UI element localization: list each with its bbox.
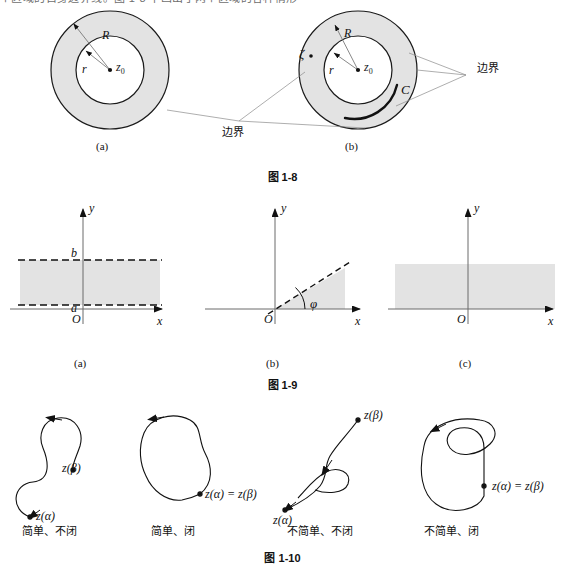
fig18b-r-label: r (329, 63, 334, 78)
fig18b-sublabel: (b) (345, 140, 358, 152)
curve-simple-closed (140, 416, 210, 500)
fig18-boundary-label-left: 边界 (222, 123, 244, 139)
fig19c-origin-label: O (457, 312, 466, 327)
fig18b-C-label: C (401, 82, 410, 98)
fig18a-sublabel: (a) (96, 140, 108, 152)
fig18-caption: 图 1-8 (0, 168, 565, 184)
fig18a-r-label: r (82, 62, 87, 77)
fig18a-center-sub: 0 (121, 67, 125, 76)
fig18b-center-sub: 0 (369, 67, 373, 76)
fig19-caption: 图 1-9 (0, 376, 565, 392)
fig19b-angle-label: φ (310, 296, 317, 312)
figure-1-9 (0, 196, 565, 356)
curve3-caption: 不简单、不闭 (287, 522, 353, 538)
fig18b-center-label: z0 (364, 60, 373, 76)
curve-nonsimple-closed (421, 419, 495, 510)
fig19-panel-b (205, 209, 360, 324)
curve4-caption: 不简单、闭 (424, 522, 479, 538)
fig19-panel-c (388, 209, 555, 324)
fig18-boundary-label-right: 边界 (477, 59, 499, 75)
curve-nonsimple-open (283, 418, 360, 512)
fig18a-center-label: z0 (116, 60, 125, 76)
curve3-end-label: z(β) (364, 408, 383, 423)
annulus-a (51, 11, 169, 129)
fig19c-x-axis-label: x (548, 314, 553, 329)
fig19c-sublabel: (c) (459, 357, 471, 369)
fig19a-x-axis-label: x (157, 314, 162, 329)
fig19a-tick-a: a (71, 301, 77, 316)
curve2-joint-label: z(α) = z(β) (205, 487, 257, 502)
curve1-caption: 简单、不闭 (22, 522, 77, 538)
fig18b-R-label: R (344, 26, 351, 41)
curve2-caption: 简单、闭 (151, 522, 195, 538)
fig18a-R-label: R (102, 28, 109, 43)
annulus-b (299, 11, 417, 129)
fig19b-sublabel: (b) (266, 357, 279, 369)
page-root: 个区域的自身边界线。图 1-8 中画出了两个区域的各种情形 (0, 0, 565, 572)
fig19a-tick-b: b (71, 246, 77, 261)
fig19b-origin-label: O (264, 312, 273, 327)
fig18b-zeta-label: ζ (299, 46, 304, 62)
curve1-end-label: z(β) (62, 461, 81, 476)
fig19a-y-axis-label: y (89, 201, 94, 216)
fig19c-y-axis-label: y (474, 201, 479, 216)
curve4-joint-label: z(α) = z(β) (492, 479, 544, 494)
fig110-caption: 图 1-10 (0, 549, 565, 565)
figure-1-10 (0, 398, 565, 523)
fig19-panel-a (10, 209, 162, 324)
top-text: 个区域的自身边界线。图 1-8 中画出了两个区域的各种情形 (0, 0, 565, 3)
fig19b-x-axis-label: x (355, 314, 360, 329)
figure-1-8 (0, 8, 565, 168)
fig19b-y-axis-label: y (281, 201, 286, 216)
fig19a-sublabel: (a) (74, 357, 86, 369)
